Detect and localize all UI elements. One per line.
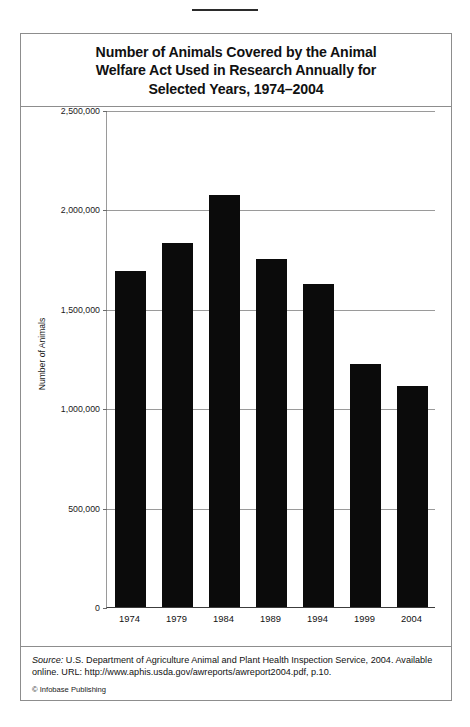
source-note: Source: U.S. Department of Agriculture A… bbox=[32, 654, 440, 678]
x-tick-label-1999: 1999 bbox=[354, 613, 375, 624]
bars-layer bbox=[107, 111, 435, 607]
y-tick-label: 1,500,000 bbox=[61, 305, 100, 315]
y-tick-label: 0 bbox=[95, 603, 100, 613]
figure-frame: Number of Animals Covered by the Animal … bbox=[20, 33, 452, 701]
title-block: Number of Animals Covered by the Animal … bbox=[21, 34, 451, 107]
copyright-note: © Infobase Publishing bbox=[32, 685, 440, 694]
bar-1984 bbox=[209, 195, 239, 608]
bar-1974 bbox=[115, 271, 145, 607]
x-tick-label-1974: 1974 bbox=[119, 613, 140, 624]
source-body: U.S. Department of Agriculture Animal an… bbox=[32, 655, 432, 677]
plot-region: Number of Animals 0500,0001,000,0001,500… bbox=[21, 104, 453, 666]
x-tick-label-1984: 1984 bbox=[213, 613, 234, 624]
bar-2004 bbox=[397, 386, 427, 607]
bar-1999 bbox=[350, 364, 380, 607]
y-tick-label: 2,500,000 bbox=[61, 106, 100, 116]
top-divider-rule bbox=[192, 9, 258, 11]
y-tick-label: 1,000,000 bbox=[61, 404, 100, 414]
plot-area: 0500,0001,000,0001,500,0002,000,0002,500… bbox=[106, 111, 435, 608]
x-tick-label-2004: 2004 bbox=[401, 613, 422, 624]
bar-1989 bbox=[256, 259, 286, 607]
y-axis-title: Number of Animals bbox=[37, 289, 47, 419]
footnote-block: Source: U.S. Department of Agriculture A… bbox=[21, 646, 451, 700]
x-tick-label-1989: 1989 bbox=[260, 613, 281, 624]
y-tick-mark bbox=[103, 608, 107, 609]
chart-title: Number of Animals Covered by the Animal … bbox=[39, 43, 433, 98]
bar-1979 bbox=[162, 243, 192, 607]
y-tick-label: 500,000 bbox=[68, 504, 100, 514]
source-label: Source: bbox=[32, 655, 63, 665]
x-tick-label-1979: 1979 bbox=[166, 613, 187, 624]
x-tick-label-1994: 1994 bbox=[307, 613, 328, 624]
x-axis-labels: 1974197919841989199419992004 bbox=[106, 613, 435, 633]
bar-1994 bbox=[303, 284, 333, 607]
y-tick-label: 2,000,000 bbox=[61, 205, 100, 215]
